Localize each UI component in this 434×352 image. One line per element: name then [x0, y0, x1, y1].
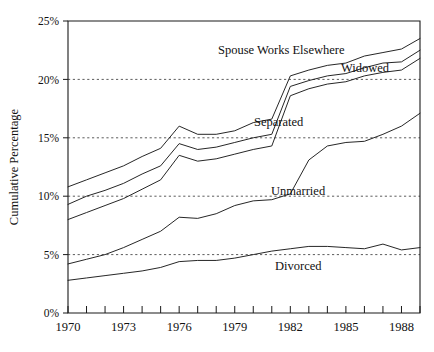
- x-tick-label-1973: 1973: [111, 320, 136, 334]
- chart-background: [0, 0, 434, 352]
- y-tick-label-15: 15%: [38, 132, 60, 144]
- x-tick-label-1988: 1988: [389, 320, 414, 334]
- y-tick-label-10: 10%: [38, 190, 60, 202]
- annotation-widowed: Widowed: [341, 61, 390, 75]
- x-tick-label-1976: 1976: [167, 320, 192, 334]
- cumulative-percentage-line-chart: 0%5%10%15%20%25% 19701973197619791982198…: [0, 0, 434, 352]
- y-tick-label-0: 0%: [44, 307, 60, 319]
- x-tick-label-1985: 1985: [333, 320, 358, 334]
- annotation-separated: Separated: [254, 115, 304, 129]
- y-axis-title: Cumulative Percentage: [7, 108, 21, 225]
- y-tick-label-5: 5%: [44, 249, 60, 261]
- y-tick-label-25: 25%: [38, 15, 60, 27]
- x-tick-label-1970: 1970: [56, 320, 81, 334]
- x-tick-label-1982: 1982: [278, 320, 303, 334]
- annotation-spouse-works-elsewhere: Spouse Works Elsewhere: [218, 43, 345, 57]
- x-tick-label-1979: 1979: [222, 320, 247, 334]
- y-tick-label-20: 20%: [38, 74, 60, 86]
- annotation-divorced: Divorced: [275, 259, 322, 273]
- annotation-unmarried: Unmarried: [271, 184, 326, 198]
- chart-figure: 0%5%10%15%20%25% 19701973197619791982198…: [0, 0, 434, 352]
